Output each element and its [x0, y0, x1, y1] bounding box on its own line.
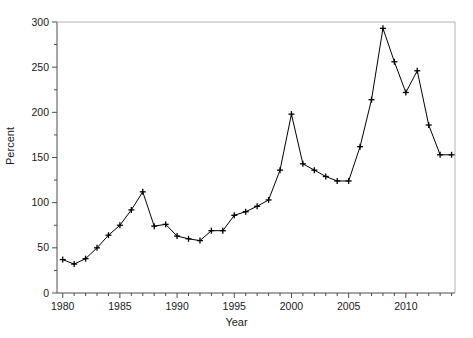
y-tick-label: 100	[31, 196, 49, 208]
data-point-marker	[300, 161, 306, 167]
line-chart-plot: 0501001502002503001980198519901995200020…	[0, 0, 473, 338]
data-point-marker	[380, 25, 386, 31]
data-point-marker	[243, 209, 249, 215]
y-tick-label: 200	[31, 106, 49, 118]
data-point-marker	[391, 59, 397, 65]
x-tick-label: 1985	[108, 300, 132, 312]
data-point-marker	[357, 144, 363, 150]
data-point-marker	[277, 167, 283, 173]
axis-tick-labels: 0501001502002503001980198519901995200020…	[31, 16, 417, 312]
data-point-marker	[449, 152, 455, 158]
data-point-marker	[186, 236, 192, 242]
x-tick-label: 1980	[51, 300, 75, 312]
series-percent-line	[63, 28, 452, 264]
y-tick-label: 250	[31, 61, 49, 73]
y-tick-label: 150	[31, 151, 49, 163]
data-point-marker	[414, 68, 420, 74]
y-tick-label: 0	[43, 287, 49, 299]
y-tick-label: 50	[37, 241, 49, 253]
x-tick-label: 2000	[280, 300, 304, 312]
data-point-marker	[266, 197, 272, 203]
x-tick-label: 1990	[165, 300, 189, 312]
y-tick-label: 300	[31, 16, 49, 28]
data-point-marker	[323, 173, 329, 179]
plot-frame	[57, 22, 455, 293]
data-markers	[60, 25, 455, 267]
x-tick-label: 2010	[394, 300, 418, 312]
data-point-marker	[254, 203, 260, 209]
data-point-marker	[60, 257, 66, 263]
data-point-marker	[151, 223, 157, 229]
data-point-marker	[71, 261, 77, 267]
data-point-marker	[346, 178, 352, 184]
data-point-marker	[369, 97, 375, 103]
chart-figure: Percent Year 050100150200250300198019851…	[0, 0, 473, 338]
data-point-marker	[140, 189, 146, 195]
data-point-marker	[311, 167, 317, 173]
x-tick-label: 2005	[337, 300, 361, 312]
axis-ticks	[52, 22, 452, 298]
data-point-marker	[403, 89, 409, 95]
data-line	[63, 28, 452, 264]
data-point-marker	[426, 122, 432, 128]
data-point-marker	[288, 111, 294, 117]
x-tick-label: 1995	[223, 300, 247, 312]
data-point-marker	[334, 178, 340, 184]
data-point-marker	[437, 152, 443, 158]
